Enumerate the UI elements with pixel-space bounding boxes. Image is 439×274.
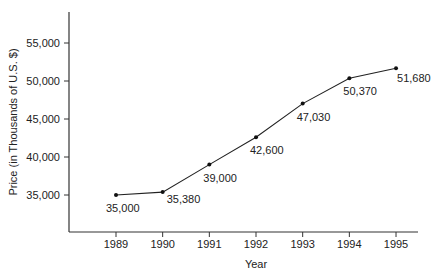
y-ticks: 35,00040,00045,00050,00055,000 (26, 37, 69, 201)
y-tick-label: 55,000 (26, 37, 60, 49)
data-point (161, 190, 165, 194)
x-tick-label: 1994 (337, 238, 361, 250)
data-point (301, 102, 305, 106)
y-tick-label: 45,000 (26, 113, 60, 125)
y-axis-label: Price (in Thousands of U.S. $) (7, 48, 19, 195)
x-tick-label: 1990 (150, 238, 174, 250)
x-ticks: 1989199019911992199319941995 (104, 232, 409, 250)
x-axis-label: Year (245, 258, 268, 270)
y-tick-label: 40,000 (26, 151, 60, 163)
data-point (394, 66, 398, 70)
data-label: 39,000 (203, 172, 237, 184)
data-point (207, 163, 211, 167)
x-tick-label: 1991 (197, 238, 221, 250)
line-chart: 35,00040,00045,00050,00055,000 198919901… (0, 0, 439, 274)
x-tick-label: 1992 (244, 238, 268, 250)
data-point (347, 76, 351, 80)
data-label: 42,600 (250, 144, 284, 156)
y-tick-label: 50,000 (26, 75, 60, 87)
axes (69, 12, 418, 232)
data-point (114, 193, 118, 197)
x-tick-label: 1995 (384, 238, 408, 250)
data-label: 51,680 (397, 72, 431, 84)
x-tick-label: 1989 (104, 238, 128, 250)
data-label: 35,380 (167, 193, 201, 205)
data-label: 50,370 (343, 85, 377, 97)
data-label: 47,030 (297, 111, 331, 123)
data-label: 35,000 (106, 202, 140, 214)
x-tick-label: 1993 (290, 238, 314, 250)
data-point (254, 135, 258, 139)
y-tick-label: 35,000 (26, 189, 60, 201)
